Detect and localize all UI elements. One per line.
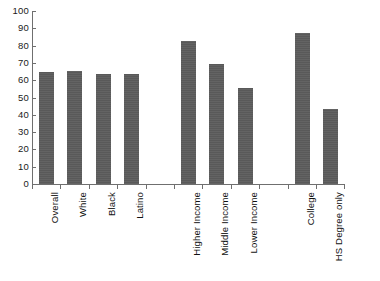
x-axis-tick [259, 185, 260, 189]
x-axis-tick [174, 185, 175, 189]
y-axis-tick-label: 40 [3, 110, 29, 120]
x-axis-tick [32, 185, 33, 189]
x-axis-label-higher-income: Higher Income [192, 192, 202, 256]
y-axis-tick [32, 149, 36, 150]
x-axis-label-middle-income: Middle Income [220, 192, 230, 256]
bar-hs-degree-only [323, 109, 338, 184]
y-axis-tick [32, 115, 36, 116]
bar-middle-income [209, 64, 224, 184]
x-axis-tick [146, 185, 147, 189]
x-axis-line [32, 184, 345, 185]
y-axis-tick-label: 0 [3, 179, 29, 189]
y-axis-tick-label: 30 [3, 127, 29, 137]
x-axis-tick [231, 185, 232, 189]
x-axis-tick [202, 185, 203, 189]
y-axis-tick [32, 28, 36, 29]
x-axis-label-college: College [306, 192, 316, 225]
x-axis-tick [316, 185, 317, 189]
bar-overall [39, 72, 54, 184]
y-axis-tick [32, 63, 36, 64]
x-axis-label-white: White [78, 192, 88, 217]
y-axis-tick-label: 60 [3, 75, 29, 85]
x-axis-tick [344, 185, 345, 189]
y-axis-tick [32, 167, 36, 168]
x-axis-label-lower-income: Lower Income [249, 192, 259, 253]
x-axis-tick [117, 185, 118, 189]
bar-black [96, 74, 111, 184]
y-axis-tick [32, 11, 36, 12]
bar-college [295, 33, 310, 184]
bar-lower-income [238, 88, 253, 184]
x-axis-tick [60, 185, 61, 189]
y-axis-tick [32, 80, 36, 81]
x-axis-label-hs-degree-only: HS Degree only [334, 192, 344, 261]
x-axis-tick [89, 185, 90, 189]
y-axis-tick [32, 98, 36, 99]
bar-latino [124, 74, 139, 184]
x-axis-label-black: Black [107, 192, 117, 216]
y-axis-tick-label: 70 [3, 58, 29, 68]
y-axis-tick [32, 132, 36, 133]
bar-chart: 100 90 80 70 60 50 40 30 20 10 0 Overall… [0, 0, 380, 281]
y-axis-tick-label: 90 [3, 23, 29, 33]
x-axis-label-overall: Overall [50, 192, 60, 223]
y-axis-tick-label: 80 [3, 41, 29, 51]
bar-higher-income [181, 41, 196, 184]
bar-white [67, 71, 82, 184]
x-axis-tick [288, 185, 289, 189]
y-axis-tick-label: 100 [3, 6, 29, 16]
y-axis-tick-label: 10 [3, 162, 29, 172]
y-axis-tick-label: 20 [3, 144, 29, 154]
y-axis-tick [32, 46, 36, 47]
x-axis-label-latino: Latino [135, 192, 145, 219]
y-axis-tick-label: 50 [3, 93, 29, 103]
